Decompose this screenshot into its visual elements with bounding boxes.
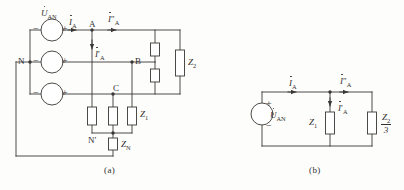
caption-a: (a)	[104, 166, 115, 175]
current-ia-prime-a-subscript: A	[100, 54, 105, 61]
source-phase-a-minus: −	[33, 24, 39, 34]
current-ia-a-subscript: A	[72, 22, 77, 29]
current-ia-prime-b-subscript: A	[343, 108, 348, 115]
component-z1-b	[326, 112, 335, 134]
impedance-zn-a-subscript: N	[126, 144, 131, 151]
source-phase-c-minus: −	[33, 88, 39, 98]
source-phase-b-minus: −	[33, 56, 39, 66]
figure-root: UAN − + − + − + N A B C N′ IA I″A I′A Z2…	[0, 0, 404, 190]
component-z2-upper	[151, 43, 160, 56]
node-label-c: C	[113, 84, 119, 93]
source-phase-a-label: UAN	[41, 9, 57, 20]
source-b-label: UAN	[270, 111, 286, 122]
impedance-z1-a-subscript: 1	[145, 114, 148, 121]
circuit-a-wires	[16, 19, 185, 156]
component-zn	[109, 138, 118, 150]
node-label-a: A	[89, 20, 96, 29]
fraction-numerator: Z2	[381, 112, 391, 125]
impedance-label-z2-over-3-b: Z2 3	[381, 112, 391, 136]
impedance-label-z1-a: Z1	[140, 110, 148, 121]
component-z2-over-3-b	[368, 112, 377, 134]
current-label-ia-b: IA	[289, 79, 297, 90]
component-source-phase-c	[41, 83, 63, 105]
current-ia-prime-a-symbol: I	[95, 50, 98, 59]
source-b-minus: −	[266, 121, 272, 131]
circuit-b-junction-dots	[328, 90, 331, 93]
junction-b-mid-top	[328, 90, 331, 93]
component-z2-right	[176, 50, 185, 76]
fraction-z2-over-3: Z2 3	[381, 112, 391, 136]
node-label-n-prime: N′	[88, 136, 96, 145]
current-ia-double-prime-b-subscript: A	[347, 81, 352, 88]
source-phase-a-symbol: U	[41, 9, 48, 18]
current-ia-a-symbol: I	[69, 18, 72, 27]
source-b-symbol: U	[270, 111, 277, 120]
junction-node-b	[130, 60, 133, 63]
node-label-b: B	[135, 57, 141, 66]
current-ia-prime-b-symbol: I	[338, 104, 341, 113]
component-z1-phase-a	[88, 107, 97, 125]
junction-node-n	[28, 60, 31, 63]
node-label-n: N	[18, 57, 25, 66]
impedance-z2-a-subscript: 2	[193, 62, 196, 69]
component-z1-phase-b	[109, 107, 118, 125]
fraction-numerator-subscript: 2	[387, 117, 390, 124]
current-label-ia-double-prime-b: I″A	[340, 77, 351, 88]
current-ia-double-prime-a-subscript: A	[115, 19, 120, 26]
impedance-label-zn-a: ZN	[121, 140, 131, 151]
component-z1-phase-c	[128, 107, 137, 125]
junction-node-n-prime	[111, 131, 114, 134]
fraction-denominator: 3	[381, 125, 391, 135]
impedance-label-z1-b: Z1	[309, 118, 317, 129]
source-phase-c-plus: +	[62, 88, 68, 98]
current-ia-double-prime-b-symbol: I	[340, 77, 343, 86]
current-ia-b-symbol: I	[289, 79, 292, 88]
current-label-ia-a: IA	[69, 18, 77, 29]
current-ia-double-prime-a-symbol: I	[108, 15, 111, 24]
current-label-ia-prime-a: I′A	[95, 50, 105, 61]
current-label-ia-prime-b: I′A	[338, 104, 348, 115]
source-phase-a-plus: +	[62, 24, 68, 34]
current-label-ia-double-prime-a: I″A	[108, 15, 119, 26]
component-source-phase-b	[41, 51, 63, 73]
impedance-z1-b-subscript: 1	[314, 122, 317, 129]
source-phase-a-subscript: AN	[48, 13, 57, 20]
caption-b: (b)	[309, 166, 321, 175]
source-b-subscript: AN	[277, 115, 286, 122]
current-ia-b-subscript: A	[292, 83, 297, 90]
impedance-label-z2-a: Z2	[188, 58, 196, 69]
component-source-phase-a	[41, 19, 63, 41]
source-phase-b-plus: +	[62, 56, 68, 66]
source-b-plus: +	[266, 99, 272, 109]
component-z2-lower	[151, 69, 160, 82]
circuit-drawing	[0, 0, 404, 190]
